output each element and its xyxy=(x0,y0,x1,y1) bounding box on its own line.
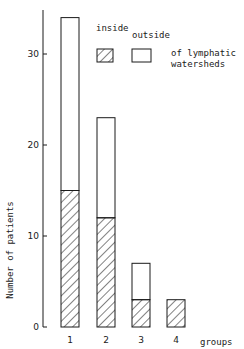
legend-inside-swatch xyxy=(97,49,113,62)
bar-3-inside xyxy=(132,300,150,327)
y-tick-10: 10 xyxy=(28,231,40,241)
y-tick-30: 30 xyxy=(28,49,40,59)
x-tick-4: 4 xyxy=(173,335,179,345)
legend-outside-label: outside xyxy=(132,30,170,40)
legend-suffix-line1: of lymphatic xyxy=(171,48,236,58)
x-tick-1: 1 xyxy=(67,335,73,345)
bar-4-inside xyxy=(167,300,185,327)
bar-3-outside xyxy=(132,263,150,299)
bar-chart: 30 20 10 0 Number of patients 1 2 3 4 gr… xyxy=(0,0,244,349)
bars xyxy=(61,18,185,327)
legend-outside-swatch xyxy=(132,49,151,62)
bar-2-inside xyxy=(97,218,115,327)
legend-suffix-line2: watersheds xyxy=(171,59,225,69)
y-axis: 30 20 10 0 Number of patients xyxy=(5,10,47,332)
x-axis: 1 2 3 4 groups xyxy=(67,335,232,347)
legend-inside-label: inside xyxy=(96,23,129,33)
bar-1-outside xyxy=(61,18,79,191)
y-axis-label: Number of patients xyxy=(5,201,15,299)
legend: inside outside of lymphatic watersheds xyxy=(96,23,236,69)
y-tick-0: 0 xyxy=(33,322,39,332)
x-axis-label: groups xyxy=(200,337,233,347)
x-tick-2: 2 xyxy=(103,335,109,345)
x-tick-3: 3 xyxy=(138,335,144,345)
bar-1-inside xyxy=(61,191,79,328)
bar-2-outside xyxy=(97,118,115,218)
y-tick-20: 20 xyxy=(28,140,40,150)
